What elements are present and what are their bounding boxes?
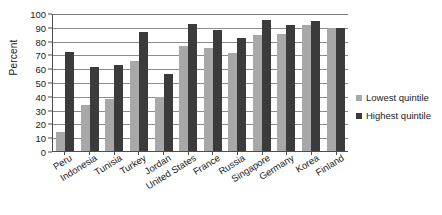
legend-swatch: [356, 95, 362, 101]
bar-group: [102, 14, 127, 151]
bar: [130, 61, 139, 151]
bar-group: [78, 14, 103, 151]
bar: [164, 74, 173, 151]
y-tick-label: 10: [35, 133, 46, 144]
legend-item: Highest quintile: [356, 110, 431, 121]
y-tick-label: 0: [41, 147, 46, 158]
y-tick-label: 60: [35, 64, 46, 75]
legend-item: Lowest quintile: [356, 92, 431, 103]
bar-group: [176, 14, 201, 151]
bar-chart: Percent 1009080706050403020100 PeruIndon…: [0, 0, 442, 215]
legend-label: Lowest quintile: [366, 92, 429, 103]
bar: [213, 30, 222, 151]
bar: [155, 97, 164, 151]
y-tick-label: 80: [35, 36, 46, 47]
legend-swatch: [356, 113, 362, 119]
x-axis-label: Tunisia: [92, 152, 124, 177]
bar: [65, 52, 74, 151]
bar: [228, 53, 237, 151]
bars-layer: [53, 14, 348, 151]
bar: [114, 65, 123, 151]
x-axis-label: Finland: [313, 152, 345, 178]
y-tick-label: 100: [30, 9, 46, 20]
x-axis-labels: PeruIndonesiaTunisiaTurkeyJordanUnited S…: [52, 152, 348, 215]
bar: [56, 132, 65, 151]
bar: [90, 67, 99, 151]
x-axis-label: France: [191, 152, 222, 177]
bar: [81, 105, 90, 151]
legend-label: Highest quintile: [366, 110, 431, 121]
bar-group: [200, 14, 225, 151]
bar: [327, 28, 336, 151]
y-tick-label: 30: [35, 105, 46, 116]
bar-group: [127, 14, 152, 151]
y-tick-label: 50: [35, 78, 46, 89]
bar: [336, 28, 345, 151]
bar: [179, 46, 188, 151]
bar-group: [323, 14, 348, 151]
bar: [277, 34, 286, 151]
bar: [302, 25, 311, 151]
bar: [188, 24, 197, 151]
bar: [286, 25, 295, 151]
bar-group: [250, 14, 275, 151]
bar-group: [299, 14, 324, 151]
bar: [105, 99, 114, 151]
y-tick-label: 70: [35, 50, 46, 61]
y-tick-label: 20: [35, 119, 46, 130]
bar-group: [151, 14, 176, 151]
bar: [311, 21, 320, 151]
bar-group: [274, 14, 299, 151]
bar: [262, 20, 271, 151]
bar-group: [53, 14, 78, 151]
y-axis-ticks: 1009080706050403020100: [0, 14, 52, 152]
chart-legend: Lowest quintileHighest quintile: [356, 92, 431, 121]
bar: [237, 38, 246, 151]
x-axis-label: Turkey: [118, 152, 148, 177]
plot-area: [52, 14, 348, 152]
bar-group: [225, 14, 250, 151]
bar: [253, 35, 262, 151]
y-tick-label: 90: [35, 22, 46, 33]
y-tick-label: 40: [35, 91, 46, 102]
bar: [139, 32, 148, 151]
bar: [204, 48, 213, 152]
